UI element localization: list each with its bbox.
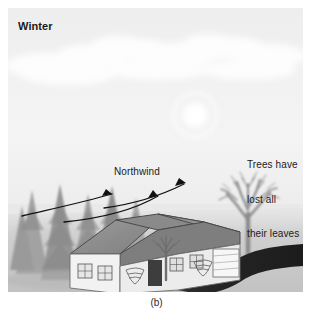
figure-caption: (b)	[0, 297, 313, 308]
trees-note: Trees have lost all their leaves	[247, 136, 299, 263]
trees-note-line-3: their leaves	[247, 228, 299, 240]
sun-icon	[164, 84, 226, 146]
trees-note-line-1: Trees have	[247, 159, 299, 171]
gable-left	[70, 254, 120, 292]
wind-label: Northwind	[114, 166, 160, 177]
winter-scene-figure: Winter Northwind Trees have lost all the…	[0, 0, 313, 323]
trees-note-line-2: lost all	[247, 194, 299, 206]
front-door	[148, 260, 162, 286]
season-label: Winter	[18, 20, 53, 32]
